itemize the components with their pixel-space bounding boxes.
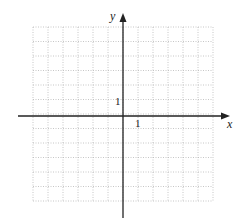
x-axis-label: x (226, 117, 233, 131)
y-unit-label: 1 (115, 95, 121, 107)
coordinate-plane: x y 1 1 (0, 0, 239, 223)
y-axis-arrow-icon (120, 13, 127, 22)
y-axis-label: y (109, 9, 116, 23)
x-unit-label: 1 (135, 117, 141, 129)
